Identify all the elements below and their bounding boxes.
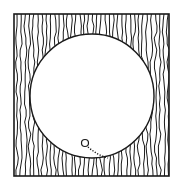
large-circle — [30, 34, 154, 158]
diagram — [0, 0, 186, 188]
